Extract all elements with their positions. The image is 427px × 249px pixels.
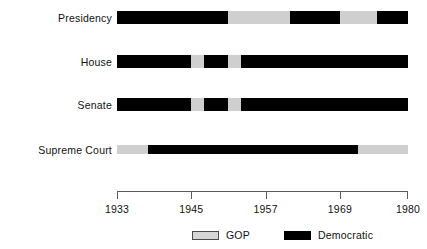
x-axis-line <box>117 191 408 192</box>
bar-segment-gop <box>228 98 240 111</box>
legend-item-gop: GOP <box>192 228 250 242</box>
bar-track-house <box>117 55 408 68</box>
bar-segment-gop <box>228 55 240 68</box>
bar-segment-democratic <box>204 55 229 68</box>
x-axis-tick-label: 1980 <box>396 203 420 215</box>
row-label-supreme-court: Supreme Court <box>4 144 112 156</box>
legend-item-democratic: Democratic <box>284 228 373 242</box>
bar-segment-gop <box>358 145 408 154</box>
bar-segment-democratic <box>290 11 340 24</box>
bar-segment-gop <box>191 55 203 68</box>
x-axis-tick <box>407 191 408 199</box>
legend-label-gop: GOP <box>226 229 250 241</box>
bar-track-presidency <box>117 11 408 24</box>
x-axis <box>117 191 408 200</box>
x-axis-tick <box>117 191 118 199</box>
x-axis-tick-label: 1957 <box>254 203 278 215</box>
legend-label-democratic: Democratic <box>318 229 373 241</box>
bar-segment-democratic <box>241 98 408 111</box>
bar-segment-democratic <box>117 98 191 111</box>
bar-track-supreme-court <box>117 145 408 154</box>
row-label-presidency: Presidency <box>4 12 112 24</box>
x-axis-tick <box>266 191 267 199</box>
bar-segment-gop <box>340 11 377 24</box>
party-control-timeline-chart: Presidency House Senate Supreme Court <box>0 0 427 249</box>
x-axis-tick-label: 1933 <box>105 203 129 215</box>
bar-segment-democratic <box>377 11 408 24</box>
row-label-house: House <box>4 56 112 68</box>
bar-segment-gop <box>117 145 148 154</box>
x-axis-tick-label: 1945 <box>179 203 203 215</box>
x-axis-tick-label: 1969 <box>328 203 352 215</box>
legend: GOP Democratic <box>0 228 427 244</box>
bar-segment-democratic <box>148 145 359 154</box>
row-label-supreme-court-placeholder-senate: Senate <box>4 99 112 111</box>
legend-swatch-democratic-icon <box>284 231 311 240</box>
legend-swatch-gop-icon <box>192 231 219 240</box>
x-axis-tick <box>191 191 192 199</box>
bar-segment-gop <box>191 98 203 111</box>
x-axis-tick <box>340 191 341 199</box>
bar-segment-democratic <box>117 55 191 68</box>
bar-segment-democratic <box>117 11 228 24</box>
bar-track-senate <box>117 98 408 111</box>
bar-segment-gop <box>228 11 290 24</box>
bar-segment-democratic <box>241 55 408 68</box>
bar-segment-democratic <box>204 98 229 111</box>
